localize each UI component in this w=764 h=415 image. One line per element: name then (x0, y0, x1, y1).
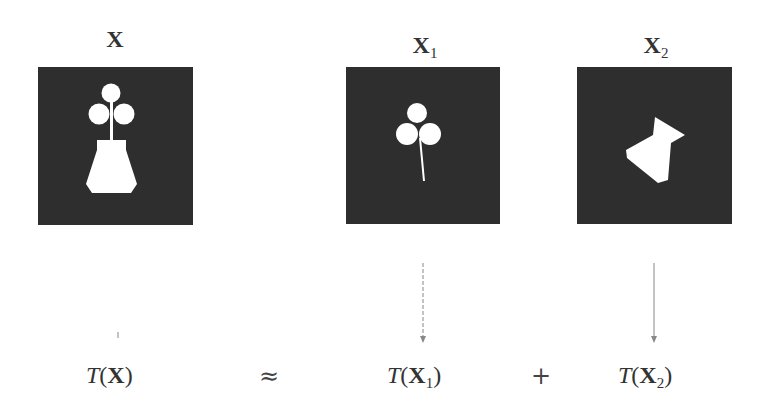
lhs-func: T (86, 362, 99, 388)
approx-symbol: ≈ (259, 362, 279, 390)
term1-func: T (387, 362, 400, 388)
eq-term2: T(X2) (618, 362, 672, 392)
plus-symbol: + (531, 362, 551, 390)
arrow-x2-head-icon (651, 336, 657, 343)
term2-arg: X (639, 362, 656, 388)
arrow-x1-head-icon (420, 336, 426, 343)
term2-func: T (618, 362, 631, 388)
lhs-arg: X (107, 362, 124, 388)
eq-term1: T(X1) (387, 362, 441, 392)
lhs-close: ) (125, 362, 133, 388)
term1-arg: X (408, 362, 425, 388)
term2-close: ) (664, 362, 672, 388)
eq-lhs: T(X) (86, 362, 133, 389)
arrows (0, 0, 764, 415)
term1-close: ) (433, 362, 441, 388)
